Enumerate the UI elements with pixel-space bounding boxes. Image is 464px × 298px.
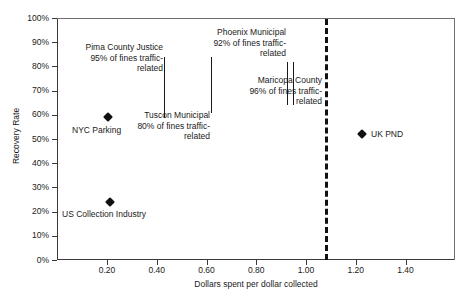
data-label-uk-pnd: UK PND (371, 129, 403, 139)
annotation-pima-line2: 95% of fines traffic- (40, 53, 163, 64)
annotation-maricopa-line1: Maricopa County (200, 75, 322, 86)
data-label-nyc-parking: NYC Parking (72, 125, 121, 135)
y-tick-label-100: 100% (27, 14, 49, 23)
y-tick-10 (52, 236, 57, 237)
annotation-phoenix-line3: related (185, 48, 286, 59)
y-tick-label-10: 10% (32, 231, 49, 240)
y-tick-100 (52, 18, 57, 19)
annotation-phoenix-line2: 92% of fines traffic- (185, 38, 286, 49)
x-tick-label-120: 1.20 (336, 266, 376, 275)
break-even-reference-line (325, 19, 328, 260)
scatter-chart: 100% 90% 80% 70% 60% 50% 40% 30% 20% 10%… (0, 0, 464, 298)
y-tick-label-0: 0% (37, 256, 49, 265)
y-tick-label-60: 60% (32, 110, 49, 119)
x-tick-label-060: 0.60 (187, 266, 227, 275)
annotation-tuscon-line3: related (110, 131, 210, 142)
y-tick-label-20: 20% (32, 207, 49, 216)
y-tick-60 (52, 115, 57, 116)
y-tick-0 (52, 260, 57, 261)
y-tick-40 (52, 163, 57, 164)
plot-right-border (454, 18, 455, 260)
annotation-tuscon-municipal: Tuscon Municipal 80% of fines traffic- r… (110, 110, 210, 142)
y-tick-20 (52, 212, 57, 213)
annotation-tuscon-line1: Tuscon Municipal (110, 110, 210, 121)
leader-line-pima (164, 57, 165, 118)
y-tick-label-40: 40% (32, 159, 49, 168)
annotation-phoenix-line1: Phoenix Municipal (185, 27, 286, 38)
y-tick-30 (52, 187, 57, 188)
x-axis-title: Dollars spent per dollar collected (57, 279, 455, 289)
y-tick-label-30: 30% (32, 183, 49, 192)
plot-top-border (57, 18, 455, 19)
annotation-pima-line1: Pima County Justice (40, 42, 163, 53)
x-tick-label-080: 0.80 (236, 266, 276, 275)
annotation-tuscon-line2: 80% of fines traffic- (110, 121, 210, 132)
annotation-maricopa-county: Maricopa County 96% of fines traffic- re… (200, 75, 322, 107)
y-tick-50 (52, 139, 57, 140)
y-tick-label-70: 70% (32, 86, 49, 95)
x-tick-label-020: 0.20 (87, 266, 127, 275)
annotation-pima-line3: related (40, 63, 163, 74)
x-tick-label-100: 1.00 (286, 266, 326, 275)
annotation-phoenix-municipal: Phoenix Municipal 92% of fines traffic- … (185, 27, 286, 59)
x-tick-label-040: 0.40 (137, 266, 177, 275)
x-tick-label-140: 1.40 (386, 266, 426, 275)
y-axis-title: Recovery Rate (11, 81, 21, 191)
data-label-us-collection-industry: US Collection Industry (62, 209, 146, 219)
annotation-maricopa-line3: related (200, 96, 322, 107)
y-tick-70 (52, 91, 57, 92)
y-tick-label-50: 50% (32, 135, 49, 144)
annotation-pima-county-justice: Pima County Justice 95% of fines traffic… (40, 42, 163, 74)
annotation-maricopa-line2: 96% of fines traffic- (200, 86, 322, 97)
